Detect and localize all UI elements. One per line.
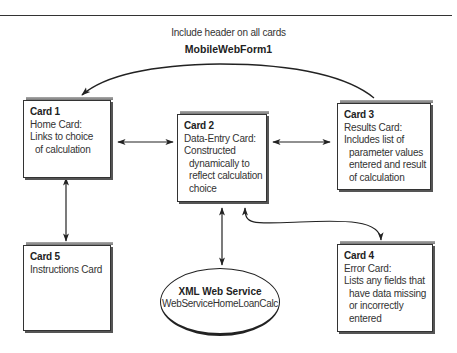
card-2: Card 2 Data-Entry Card: Constructed dyna… (177, 114, 267, 202)
card-3: Card 3 Results Card: Includes list of pa… (337, 103, 431, 190)
card-title: Card 2 (184, 120, 260, 133)
card-text: Data-Entry Card: (184, 133, 260, 146)
card-title: Card 5 (30, 251, 104, 264)
card-text: entered (344, 313, 426, 326)
card-title: Card 4 (344, 250, 426, 263)
card-text: Lists any fields that (344, 275, 426, 288)
card-title: Card 1 (30, 106, 104, 119)
card-title: Card 3 (344, 109, 424, 122)
card-text: of calculation (344, 172, 424, 185)
card-text: Results Card: (344, 122, 424, 135)
card-text: reflect calculation (184, 170, 260, 183)
card-5: Card 5 Instructions Card (23, 245, 111, 331)
card-text: choice (184, 183, 260, 196)
card-4: Card 4 Error Card: Lists any fields that… (337, 244, 433, 332)
xml-web-service-node: XML Web Service WebServiceHomeLoanCalc (160, 268, 280, 336)
card-text: Links to choice (30, 131, 104, 144)
card-text: parameter values (344, 147, 424, 160)
card-text: Error Card: (344, 263, 426, 276)
card-text: or incorrectly (344, 300, 426, 313)
card-text: entered and result (344, 159, 424, 172)
card-text: Includes list of (344, 134, 424, 147)
card-text: dynamically to (184, 158, 260, 171)
arrow-card2-card4 (245, 208, 381, 240)
service-name: WebServiceHomeLoanCalc (161, 298, 279, 310)
service-title: XML Web Service (161, 286, 279, 298)
arrow-card3-to-card1 (82, 64, 374, 98)
card-text: Instructions Card (30, 264, 104, 277)
card-text: of calculation (30, 144, 104, 157)
card-text: Constructed (184, 145, 260, 158)
card-text: Home Card: (30, 119, 104, 132)
card-text: have data missing (344, 288, 426, 301)
card-1: Card 1 Home Card: Links to choice of cal… (23, 100, 111, 178)
